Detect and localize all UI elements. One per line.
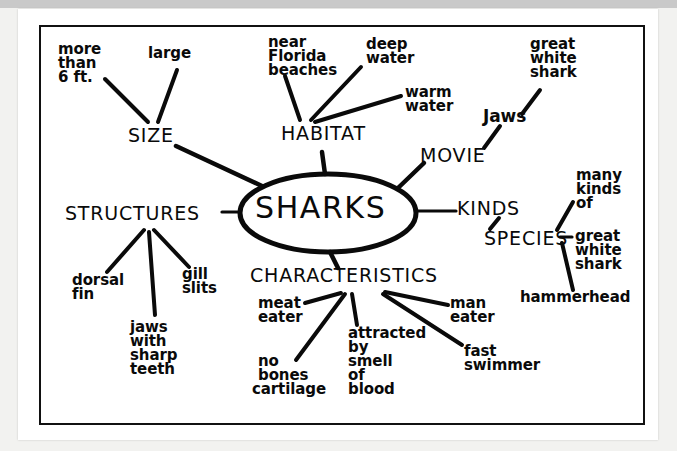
leaf-label-more-than-line3: 6 ft. [58,70,93,85]
leaf-label-man-eater-line2: eater [450,310,495,325]
leaf-label-warm-water-line2: water [405,99,453,114]
branch-label-structures: STRUCTURES [65,204,200,223]
connector-habitat-near-florida [285,76,300,120]
connector-structures-dorsal-fin [107,230,144,272]
connector-structures-gill-slits [154,230,189,267]
leaf-label-deep-water-line2: water [366,51,414,66]
connector-species-hammerhead [562,243,573,290]
leaf-label-dorsal-fin-line2: fin [72,287,94,302]
connector-species-many-kinds-of [557,202,573,230]
branch-label-species: SPECIES [484,229,568,248]
branch-label-habitat: HABITAT [281,124,366,143]
branch-label-movie: MOVIE [420,146,486,165]
connector-movie-jaws [484,126,500,148]
leaf-label-gill-slits-line2: slits [182,281,217,296]
leaf-label-meat-eater-line2: eater [258,310,303,325]
branch-label-kinds: KINDS [457,199,520,218]
leaf-label-many-kinds-of-line3: of [576,196,593,211]
leaf-label-hammerhead: hammerhead [520,290,630,305]
leaf-label-attracted-by-smell-of-blood-line5: blood [348,382,395,397]
connector-size-more-than [105,79,148,122]
leaf-label-fast-swimmer-line2: swimmer [464,358,540,373]
leaf-label-no-bones-cartilage-line3: cartilage [252,382,326,397]
connector-structures-jaws-sharp-teeth [149,232,155,315]
leaf-label-near-florida-line3: beaches [268,63,337,78]
leaf-label-large: large [148,46,191,61]
branch-label-size: SIZE [128,126,174,145]
connector-sharks-movie [398,163,424,188]
connector-sharks-size [176,146,262,186]
leaf-label-jaws-movie: Jaws [483,108,526,125]
branch-label-characteristics: CHARACTERISTICS [250,266,438,285]
leaf-label-great-white-shark-movie-line3: shark [530,65,577,80]
leaf-label-jaws-sharp-teeth-line4: teeth [130,362,175,377]
connector-size-large [158,70,177,122]
connector-characteristics-meat-eater [305,293,341,303]
connector-characteristics-attracted-by-smell [352,294,357,325]
leaf-label-great-white-shark-species-line3: shark [575,257,622,272]
connector-sharks-habitat [322,152,325,174]
center-node-label: SHARKS [255,193,386,224]
